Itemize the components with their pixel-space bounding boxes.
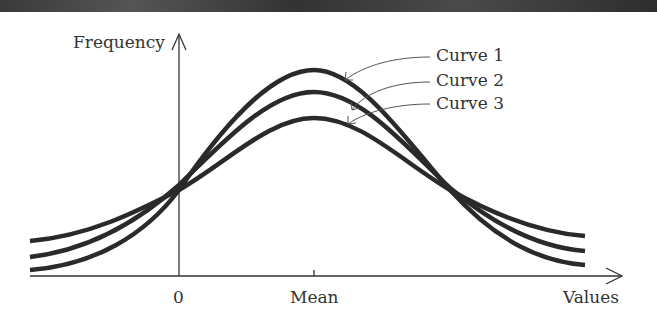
x-tick-zero: 0 (173, 287, 184, 307)
legend-curve-1: Curve 1 (436, 45, 504, 65)
curve1-pointer (345, 57, 430, 80)
x-axis-label: Values (563, 287, 619, 307)
x-tick-mean: Mean (290, 287, 339, 307)
y-axis-label: Frequency (73, 32, 165, 52)
legend-curve-3: Curve 3 (436, 93, 504, 113)
legend-curve-2: Curve 2 (436, 70, 504, 90)
